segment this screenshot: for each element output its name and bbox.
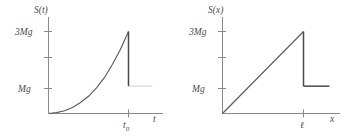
left-ytick-label-mg: Mg [17,84,31,94]
left-x-axis-label: t [153,114,156,124]
figure-container: S(t) 3Mg Mg t0 t S(x) [0,0,353,140]
left-xtick-label-t0: t0 [123,120,130,133]
left-y-axis-label: S(t) [34,5,48,16]
panel-left: S(t) 3Mg Mg t0 t [14,5,163,133]
right-y-axis-label: S(x) [208,5,223,16]
right-ytick-label-mg: Mg [191,84,205,94]
left-curve-rise [49,32,129,114]
right-ytick-label-3mg: 3Mg [188,27,207,37]
panel-right: S(x) 3Mg Mg ℓ x [188,5,340,130]
left-ytick-label-3mg: 3Mg [14,27,33,37]
right-xtick-label-l: ℓ [300,120,304,130]
right-x-axis-label: x [329,114,335,124]
right-curve-rise [223,32,304,114]
